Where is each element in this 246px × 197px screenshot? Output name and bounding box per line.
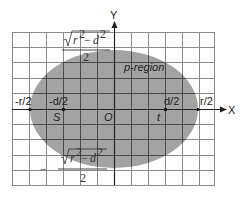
tick-label-neg-r-half: -r/2 [15, 95, 32, 107]
svg-text:−: − [84, 33, 91, 47]
left-vertex-marker [29, 108, 32, 111]
svg-text:r: r [73, 33, 78, 47]
svg-text:−: − [81, 151, 88, 165]
tick-label-r-half: r/2 [200, 95, 213, 107]
diagram-canvas: X Y -r/2 -d/2 d/2 r/2 S O t p-region r 2… [0, 0, 246, 197]
svg-text:r: r [70, 151, 75, 165]
point-s-label: S [53, 111, 61, 123]
point-s-marker [62, 108, 66, 112]
svg-text:−: − [40, 162, 47, 176]
x-axis-label: X [228, 104, 236, 116]
svg-text:2: 2 [100, 27, 106, 41]
svg-text:2: 2 [97, 145, 103, 159]
y-axis-label: Y [110, 9, 118, 21]
y-axis-arrow-icon [112, 21, 118, 28]
origin-label: O [104, 111, 113, 123]
svg-text:2: 2 [83, 50, 89, 64]
svg-text:d: d [90, 151, 97, 165]
tick-label-neg-d-half: -d/2 [49, 95, 68, 107]
region-label: p-region [123, 61, 164, 73]
svg-text:d: d [93, 33, 100, 47]
tick-label-d-half: d/2 [164, 95, 179, 107]
x-axis-arrow-icon [220, 107, 227, 113]
point-t-marker [164, 108, 168, 112]
svg-text:2: 2 [80, 171, 86, 185]
right-vertex-marker [197, 108, 200, 111]
